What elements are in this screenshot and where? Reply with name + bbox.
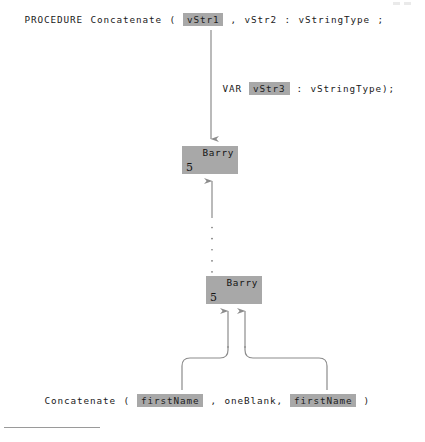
diagram-canvas: PROCEDURE Concatenate ( vStr1 , vStr2 : … [0, 0, 425, 442]
footnote-rule [4, 427, 100, 428]
bracket-left-firstname [182, 346, 228, 390]
bracket-right-firstname [245, 346, 327, 390]
connector-overlay [0, 0, 425, 442]
